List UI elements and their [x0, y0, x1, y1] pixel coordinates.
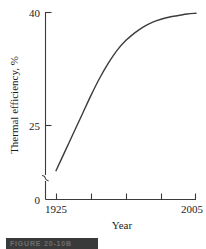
figure-caption-bar: FIGURE 20-10B	[6, 238, 98, 249]
y-axis-title: Thermal efficiency, %	[8, 56, 20, 154]
y-tick-label-25: 25	[29, 120, 41, 132]
thermal-efficiency-curve	[56, 13, 196, 170]
figure-caption-label: FIGURE 20-10B	[6, 238, 98, 249]
thermal-efficiency-chart: 40 25 0 1925 2005 Thermal efficiency, % …	[0, 0, 206, 232]
figure-container: 40 25 0 1925 2005 Thermal efficiency, % …	[0, 0, 206, 249]
x-axis-title: Year	[112, 219, 133, 231]
y-tick-label-40: 40	[29, 7, 41, 19]
y-tick-label-0: 0	[35, 194, 41, 206]
x-tick-label-2005: 2005	[181, 203, 204, 215]
x-tick-label-1925: 1925	[45, 203, 68, 215]
y-axis-break-mark	[43, 176, 49, 181]
